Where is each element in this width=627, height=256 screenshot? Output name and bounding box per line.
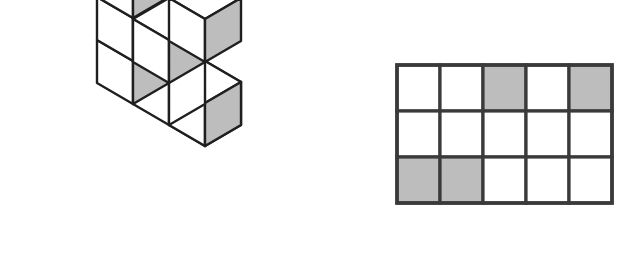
grid-cell-r1-c2: [440, 65, 483, 111]
grid-cell-r1-c1: [397, 65, 440, 111]
grid-cell-r2-c2: [440, 111, 483, 157]
grid-cell-r3-c1: [397, 157, 440, 203]
grid-cell-r3-c3: [483, 157, 526, 203]
grid-cell-r3-c2: [440, 157, 483, 203]
illustration-canvas: Isometric cube arrangement and its plan …: [0, 0, 627, 256]
plan-grid: [397, 65, 612, 203]
grid-cell-r3-c5: [569, 157, 612, 203]
grid-cell-r3-c4: [526, 157, 569, 203]
figure-root: Isometric cube arrangement and its plan …: [0, 0, 627, 256]
grid-cell-r2-c5: [569, 111, 612, 157]
grid-cell-r2-c4: [526, 111, 569, 157]
grid-cell-r1-c5: [569, 65, 612, 111]
grid-cell-r2-c3: [483, 111, 526, 157]
grid-cell-r2-c1: [397, 111, 440, 157]
grid-cell-r1-c3: [483, 65, 526, 111]
grid-cell-r1-c4: [526, 65, 569, 111]
